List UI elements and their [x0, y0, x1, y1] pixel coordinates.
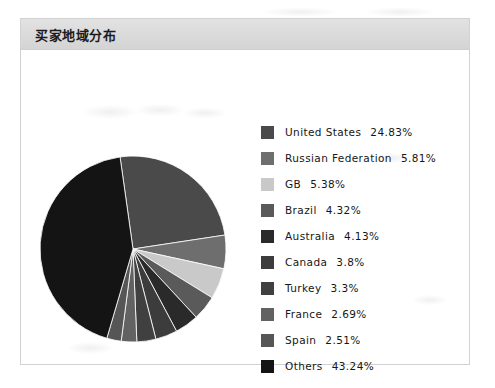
legend-item[interactable]: Russian Federation5.81%	[261, 145, 471, 171]
legend-item-value: 5.81%	[401, 152, 436, 164]
buyer-region-distribution-panel: 买家地域分布 United States24.83%Russian Federa…	[20, 18, 470, 365]
legend-item-label: Turkey	[285, 282, 322, 294]
legend-item-value: 3.8%	[336, 256, 364, 268]
legend-color-swatch	[261, 334, 274, 347]
legend-color-swatch	[261, 360, 274, 373]
legend-item-label: Spain	[285, 334, 316, 346]
legend-item[interactable]: Brazil4.32%	[261, 197, 471, 223]
legend-color-swatch	[261, 152, 274, 165]
legend-item-label: Australia	[285, 230, 335, 242]
legend-item[interactable]: Spain2.51%	[261, 327, 471, 353]
page-title: 买家地域分布	[35, 25, 116, 44]
legend-item[interactable]: GB5.38%	[261, 171, 471, 197]
legend-item-value: 43.24%	[332, 360, 374, 372]
legend-item[interactable]: Others43.24%	[261, 353, 471, 379]
legend-item-label: France	[285, 308, 322, 320]
legend-item-label: Russian Federation	[285, 152, 392, 164]
legend-item-label: Canada	[285, 256, 327, 268]
pie-chart: United States24.83%Russian Federation5.8…	[21, 50, 471, 364]
panel-body: United States24.83%Russian Federation5.8…	[21, 50, 469, 364]
pie-chart-graphic	[38, 154, 228, 344]
legend-color-swatch	[261, 178, 274, 191]
legend-item-value: 3.3%	[331, 282, 359, 294]
legend-item-label: United States	[285, 126, 361, 138]
legend-item[interactable]: France2.69%	[261, 301, 471, 327]
legend-color-swatch	[261, 230, 274, 243]
legend-item-value: 2.69%	[331, 308, 366, 320]
legend-item[interactable]: United States24.83%	[261, 119, 471, 145]
legend-item[interactable]: Turkey3.3%	[261, 275, 471, 301]
legend-item-value: 5.38%	[310, 178, 345, 190]
legend-item-label: Others	[285, 360, 323, 372]
legend-color-swatch	[261, 282, 274, 295]
legend-color-swatch	[261, 204, 274, 217]
panel-header: 买家地域分布	[21, 19, 469, 50]
chart-legend: United States24.83%Russian Federation5.8…	[261, 119, 471, 379]
legend-item-label: GB	[285, 178, 301, 190]
legend-item[interactable]: Canada3.8%	[261, 249, 471, 275]
legend-item-value: 4.32%	[326, 204, 361, 216]
legend-color-swatch	[261, 308, 274, 321]
pie-chart-svg	[38, 154, 228, 344]
legend-item-value: 4.13%	[344, 230, 379, 242]
legend-item[interactable]: Australia4.13%	[261, 223, 471, 249]
pie-slice[interactable]	[120, 156, 225, 249]
legend-item-value: 2.51%	[325, 334, 360, 346]
legend-item-label: Brazil	[285, 204, 317, 216]
legend-color-swatch	[261, 126, 274, 139]
legend-item-value: 24.83%	[370, 126, 412, 138]
legend-color-swatch	[261, 256, 274, 269]
pie-slice-group	[40, 156, 226, 342]
